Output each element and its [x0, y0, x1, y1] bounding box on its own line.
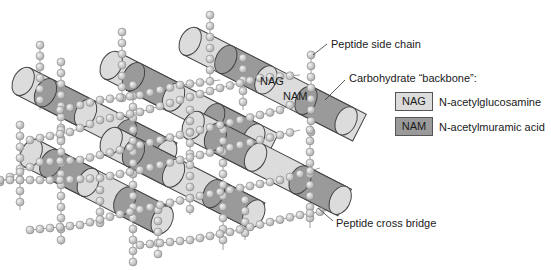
label-peptide-cross-bridge: Peptide cross bridge — [336, 217, 436, 230]
on-cylinder-nam-label: NAM — [283, 90, 307, 102]
legend-swatch-nam: NAM — [395, 117, 433, 136]
label-peptide-side-chain: Peptide side chain — [331, 38, 421, 51]
on-cylinder-nag-label: NAG — [260, 75, 284, 87]
label-carbohydrate-backbone: Carbohydrate “backbone”: — [349, 72, 477, 85]
legend-swatch-nag: NAG — [395, 92, 433, 111]
legend-item-nag: NAG N-acetylglucosamine — [395, 92, 541, 111]
legend-item-nam: NAM N-acetylmuramic acid — [395, 117, 545, 136]
legend-text-nag: N-acetylglucosamine — [439, 96, 541, 108]
legend-text-nam: N-acetylmuramic acid — [439, 121, 545, 133]
